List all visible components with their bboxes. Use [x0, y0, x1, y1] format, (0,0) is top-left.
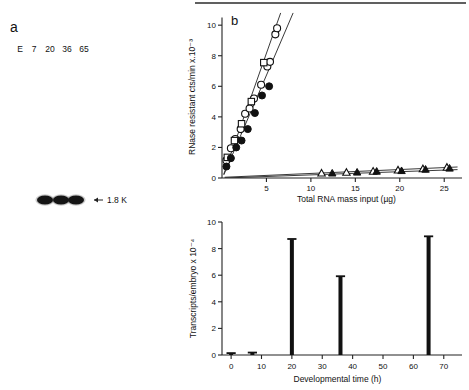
bar [336, 275, 345, 355]
data-point-open-circle [274, 25, 281, 32]
x-tick-label: 5 [264, 184, 269, 193]
band-size-marker: 1.8 K [94, 195, 127, 205]
y-tick-label: 8 [212, 245, 217, 254]
y-axis-label: Transcripts/embryo x 10⁻⁴ [188, 238, 198, 338]
y-tick-label: 6 [212, 271, 217, 280]
y-axis-label: RNase resistant cts/min x.10⁻³ [187, 39, 197, 155]
y-tick-label: 4 [212, 113, 217, 122]
panel-a-label: a [10, 19, 18, 35]
left-arrow-icon [94, 198, 98, 203]
data-point-filled-circle [251, 110, 258, 117]
data-point-open-circle [267, 58, 274, 65]
y-tick-label: 0 [212, 174, 217, 183]
x-tick-label: 50 [379, 362, 388, 371]
gel-lane-label: 7 [32, 44, 37, 54]
y-tick-label: 10 [207, 21, 216, 30]
data-point-open-square [238, 121, 244, 127]
data-point-filled-circle [233, 144, 240, 151]
bar [424, 235, 433, 355]
x-tick-label: 30 [318, 362, 327, 371]
data-point-filled-circle [227, 155, 234, 162]
x-tick-label: 0 [229, 362, 234, 371]
scatter-chart-panel-b: 0246810510152025Total RNA mass input (µg… [187, 13, 462, 204]
gel-band [66, 194, 85, 206]
gel-lane-label: E [17, 44, 23, 54]
x-tick-label: 15 [351, 184, 360, 193]
x-tick-label: 60 [409, 362, 418, 371]
data-point-open-square [248, 98, 254, 104]
x-tick-label: 40 [348, 362, 357, 371]
x-tick-label: 10 [257, 362, 266, 371]
x-tick-label: 20 [287, 362, 296, 371]
data-point-filled-circle [223, 163, 230, 170]
gel-lane-label: 20 [45, 44, 55, 54]
band-size-label: 1.8 K [107, 195, 127, 205]
data-point-filled-circle [266, 83, 273, 90]
bar [287, 238, 296, 355]
data-point-open-circle [258, 81, 265, 88]
data-point-filled-circle [244, 126, 251, 133]
y-tick-label: 6 [212, 82, 217, 91]
data-point-filled-circle [238, 137, 245, 144]
y-tick-label: 8 [212, 52, 217, 61]
y-tick-label: 10 [207, 218, 216, 227]
x-axis-label: Total RNA mass input (µg) [297, 194, 396, 204]
bar-chart-developmental-time: 0246810010203040506070Developmental time… [188, 218, 462, 384]
gel-lane-label: 36 [62, 44, 72, 54]
data-point-open-square [261, 59, 267, 65]
y-tick-label: 2 [212, 143, 217, 152]
panel-b-label: b [231, 13, 238, 28]
data-point-open-square [231, 137, 237, 143]
data-point-filled-circle [259, 92, 266, 99]
y-tick-label: 0 [212, 351, 217, 360]
scientific-figure: aE72036651.8 K0246810510152025Total RNA … [0, 0, 469, 390]
x-tick-label: 20 [395, 184, 404, 193]
gel-lane-label: 65 [79, 44, 89, 54]
x-tick-label: 70 [439, 362, 448, 371]
x-axis-label: Developmental time (h) [294, 374, 382, 384]
panel-a-gel-blot: aE72036651.8 K [10, 19, 127, 206]
x-tick-label: 10 [306, 184, 315, 193]
x-tick-label: 25 [440, 184, 449, 193]
y-tick-label: 2 [212, 324, 217, 333]
y-tick-label: 4 [212, 298, 217, 307]
figure-panel-container: aE72036651.8 K0246810510152025Total RNA … [0, 0, 469, 390]
